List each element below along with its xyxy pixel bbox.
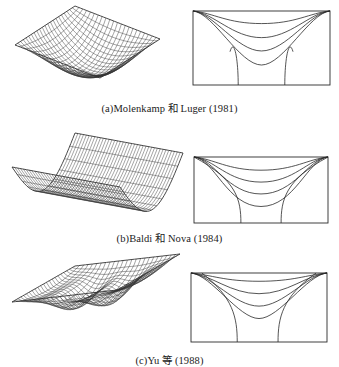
panel-b-caption: (b)Baldi 和 Nova (1984) [0,230,339,245]
panel-a-yield-surface-section [193,11,330,85]
panel-c-yield-surface-section [191,273,327,342]
panel-a-surface-plot [15,6,160,78]
panel-b-surface-plot [12,133,183,211]
panel-a-caption: (a)Molenkamp 和 Luger (1981) [0,100,339,115]
panel-c-caption: (c)Yu 等 (1988) [0,352,339,367]
panel-b-yield-surface-section [194,157,328,223]
panel-c-surface-plot [12,254,180,310]
